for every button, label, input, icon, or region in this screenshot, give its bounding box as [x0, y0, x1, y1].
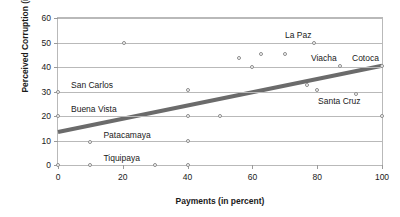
- data-point[interactable]: [56, 114, 60, 118]
- point-label-santa-cruz: Santa Cruz: [317, 96, 362, 107]
- y-tick-label-10: 10: [42, 136, 51, 146]
- point-label-viacha: Viacha: [310, 53, 338, 64]
- y-axis-title-wrapper: Perceived Corruption (in percent): [0, 0, 24, 165]
- y-tick-label-0: 0: [46, 160, 51, 170]
- x-tick-label-20: 20: [118, 172, 127, 182]
- data-point[interactable]: [338, 64, 342, 68]
- data-point[interactable]: [186, 114, 190, 118]
- scatter-chart-figure: Perceived Corruption (in percent) 010203…: [0, 0, 400, 217]
- x-tick-label-80: 80: [312, 172, 321, 182]
- gridline-y-50: [58, 43, 382, 44]
- y-tick-label-50: 50: [42, 38, 51, 48]
- data-point[interactable]: [88, 163, 92, 167]
- plot-area: 0102030405060020406080100La PazViachaCot…: [57, 17, 383, 166]
- data-point[interactable]: [186, 163, 190, 167]
- data-point[interactable]: [380, 114, 384, 118]
- data-point[interactable]: [312, 41, 316, 45]
- data-point[interactable]: [56, 163, 60, 167]
- y-axis-title: Perceived Corruption (in percent): [20, 0, 30, 105]
- y-tick-mark-40: [54, 67, 58, 68]
- gridline-y-60: [58, 18, 382, 19]
- data-point[interactable]: [259, 52, 263, 56]
- x-tick-mark-20: [123, 165, 124, 169]
- x-tick-label-60: 60: [248, 172, 257, 182]
- data-point[interactable]: [283, 52, 287, 56]
- y-tick-label-20: 20: [42, 111, 51, 121]
- x-tick-mark-100: [382, 165, 383, 169]
- data-point[interactable]: [153, 163, 157, 167]
- data-point[interactable]: [186, 88, 190, 92]
- y-tick-mark-60: [54, 18, 58, 19]
- x-tick-label-100: 100: [375, 172, 389, 182]
- point-label-san-carlos: San Carlos: [70, 80, 114, 91]
- data-point[interactable]: [218, 114, 222, 118]
- data-point[interactable]: [56, 90, 60, 94]
- x-tick-mark-60: [252, 165, 253, 169]
- point-label-cotoca: Cotoca: [351, 53, 380, 64]
- point-label-buena-vista: Buena Vista: [70, 104, 118, 115]
- data-point[interactable]: [380, 64, 384, 68]
- x-axis-title: Payments (in percent): [55, 196, 385, 206]
- point-label-tiquipaya: Tiquipaya: [102, 153, 141, 164]
- y-tick-label-60: 60: [42, 13, 51, 23]
- y-tick-mark-50: [54, 43, 58, 44]
- point-label-la-paz: La Paz: [284, 30, 312, 41]
- x-tick-label-40: 40: [183, 172, 192, 182]
- y-tick-label-40: 40: [42, 62, 51, 72]
- x-tick-label-0: 0: [56, 172, 61, 182]
- y-tick-label-30: 30: [42, 87, 51, 97]
- data-point[interactable]: [186, 139, 190, 143]
- x-tick-mark-80: [317, 165, 318, 169]
- gridline-y-40: [58, 67, 382, 68]
- gridline-y-30: [58, 92, 382, 93]
- y-tick-mark-10: [54, 141, 58, 142]
- point-label-patacamaya: Patacamaya: [102, 130, 151, 141]
